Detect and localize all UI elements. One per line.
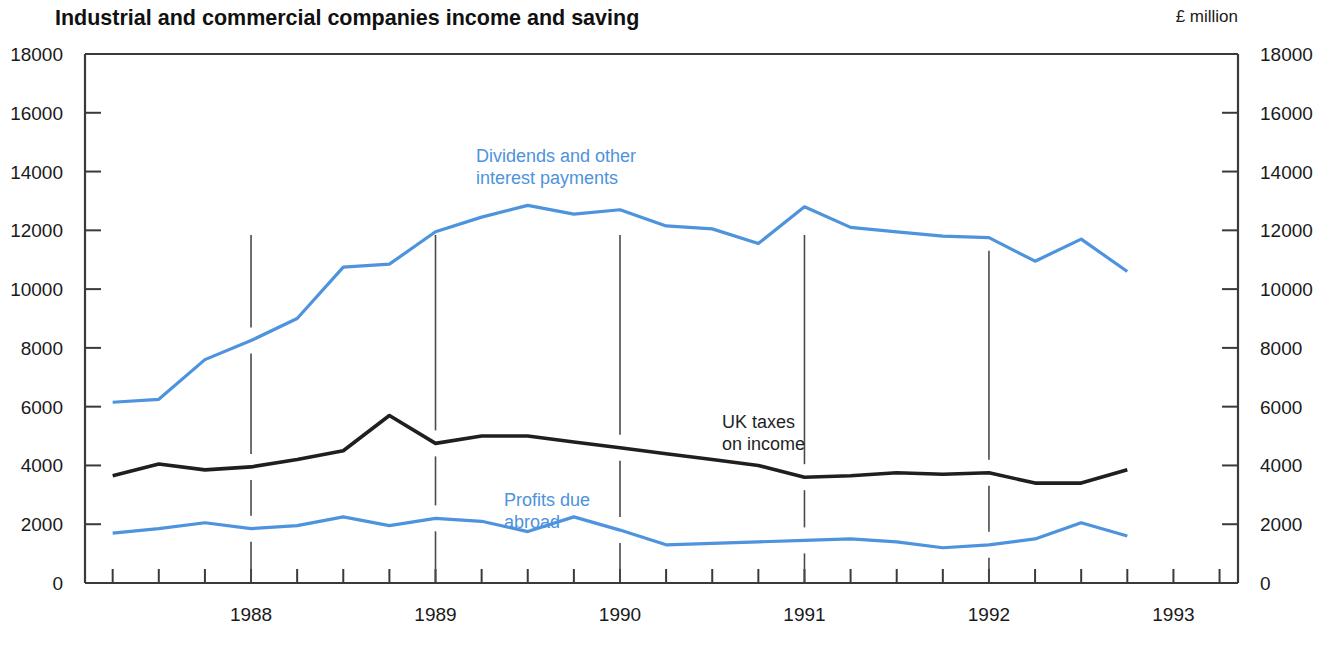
x-axis-ticks <box>113 569 1220 583</box>
y-axis-right-ticks <box>1222 113 1238 524</box>
x-axis-year-labels: 198819891990199119921993 <box>230 604 1195 625</box>
x-axis-year-label: 1991 <box>783 604 825 625</box>
y-axis-left-tick-label: 4000 <box>21 455 63 476</box>
unit-label: £ million <box>1176 7 1238 26</box>
y-axis-right-labels: 1800016000140001200010000800060004000200… <box>1260 44 1313 594</box>
y-axis-right-tick-label: 16000 <box>1260 103 1313 124</box>
y-axis-left-tick-label: 2000 <box>21 514 63 535</box>
y-axis-left-tick-label: 8000 <box>21 338 63 359</box>
y-axis-left-ticks <box>85 113 101 524</box>
y-axis-left-tick-label: 18000 <box>10 44 63 65</box>
x-axis-year-label: 1989 <box>414 604 456 625</box>
annotation-profits-line2: abroad <box>504 512 560 532</box>
y-axis-right-tick-label: 8000 <box>1260 338 1302 359</box>
annotation-uk-taxes-line1: UK taxes <box>722 412 795 432</box>
y-axis-left-tick-label: 6000 <box>21 397 63 418</box>
y-axis-left-tick-label: 14000 <box>10 162 63 183</box>
x-axis-year-label: 1993 <box>1152 604 1194 625</box>
y-axis-left-tick-label: 10000 <box>10 279 63 300</box>
y-axis-right-tick-label: 6000 <box>1260 397 1302 418</box>
x-axis-year-label: 1990 <box>599 604 641 625</box>
y-axis-right-tick-label: 14000 <box>1260 162 1313 183</box>
annotation-dividends-line2: interest payments <box>476 168 618 188</box>
annotation-dividends-line1: Dividends and other <box>476 146 636 166</box>
x-axis-year-label: 1988 <box>230 604 272 625</box>
y-axis-right-tick-label: 12000 <box>1260 220 1313 241</box>
y-axis-right-tick-label: 2000 <box>1260 514 1302 535</box>
chart-container: Industrial and commercial companies inco… <box>0 0 1324 650</box>
income-and-saving-line-chart: Industrial and commercial companies inco… <box>0 0 1324 650</box>
y-axis-right-tick-label: 0 <box>1260 573 1271 594</box>
y-axis-right-tick-label: 10000 <box>1260 279 1313 300</box>
annotation-profits-line1: Profits due <box>504 490 590 510</box>
annotation-uk-taxes-line2: on income <box>722 434 805 454</box>
y-axis-left-tick-label: 12000 <box>10 220 63 241</box>
y-axis-right-tick-label: 4000 <box>1260 455 1302 476</box>
page-title: Industrial and commercial companies inco… <box>55 6 639 30</box>
y-axis-left-tick-label: 0 <box>52 573 63 594</box>
y-axis-right-tick-label: 18000 <box>1260 44 1313 65</box>
y-axis-left-labels: 1800016000140001200010000800060004000200… <box>10 44 63 594</box>
x-axis-year-label: 1992 <box>968 604 1010 625</box>
y-axis-left-tick-label: 16000 <box>10 103 63 124</box>
